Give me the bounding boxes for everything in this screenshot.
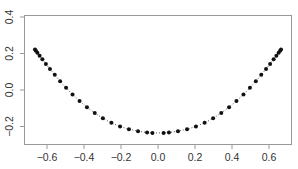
y-tick-label: 0.0: [3, 83, 15, 98]
data-point: [109, 121, 113, 125]
x-tick-label: −0.6: [37, 151, 58, 163]
data-point: [203, 121, 207, 125]
data-point: [53, 73, 57, 77]
y-axis: −0.20.00.20.4: [3, 10, 25, 137]
y-tick-label: −0.2: [3, 116, 15, 137]
data-point: [145, 131, 149, 135]
plot-frame: [25, 16, 292, 145]
data-point: [185, 127, 189, 131]
x-tick-label: −0.4: [74, 151, 95, 163]
scatter-chart: −0.6−0.4−0.20.00.20.40.6 −0.20.00.20.4: [0, 0, 298, 169]
x-tick-label: 0.2: [188, 151, 203, 163]
data-point: [234, 99, 238, 103]
data-point: [127, 127, 131, 131]
x-tick-label: −0.2: [111, 151, 132, 163]
data-point: [219, 111, 223, 115]
data-point: [64, 86, 68, 90]
data-point: [48, 67, 52, 71]
x-tick-label: 0.0: [151, 151, 166, 163]
x-tick-label: 0.6: [262, 151, 277, 163]
data-point: [78, 99, 82, 103]
x-tick-label: 0.4: [225, 151, 240, 163]
data-point: [44, 62, 48, 66]
data-point: [241, 92, 245, 96]
data-point: [85, 105, 89, 109]
data-point: [176, 129, 180, 133]
data-point: [150, 131, 154, 135]
data-point: [136, 129, 140, 133]
data-point: [71, 92, 75, 96]
y-tick-label: 0.2: [3, 46, 15, 61]
data-point: [38, 54, 42, 58]
data-point: [101, 116, 105, 120]
data-point: [40, 57, 44, 61]
data-point: [268, 62, 272, 66]
data-point: [58, 79, 62, 83]
data-point: [227, 105, 231, 109]
x-axis: −0.6−0.4−0.20.00.20.40.6: [37, 145, 277, 164]
series-points: [33, 47, 283, 134]
series-dotted-line: [35, 50, 281, 133]
data-point: [254, 79, 258, 83]
data-point: [259, 73, 263, 77]
data-point: [194, 125, 198, 129]
data-point: [272, 57, 276, 61]
data-point: [264, 67, 268, 71]
data-point: [279, 47, 283, 51]
y-tick-label: 0.4: [3, 10, 15, 25]
data-point: [93, 111, 97, 115]
data-point: [167, 131, 171, 135]
data-point: [118, 125, 122, 129]
data-point: [162, 131, 166, 135]
data-point: [211, 116, 215, 120]
data-point: [248, 86, 252, 90]
